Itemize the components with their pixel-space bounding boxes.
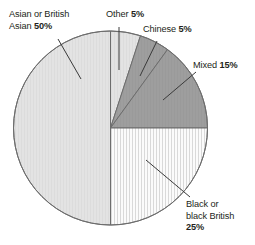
pie-slice-asian-or-british-asian [14, 31, 111, 225]
slice-label-asian-line1: Asian or British [9, 9, 69, 19]
slice-label-other: Other 5% [106, 9, 144, 21]
slice-label-chinese-name: Chinese [143, 24, 178, 34]
slice-label-asian-line2-name: Asian [9, 21, 34, 31]
slice-label-asian-or-british-asian: Asian or British Asian 50% [9, 9, 69, 32]
slice-label-chinese-percent: 5% [178, 24, 191, 34]
slice-label-other-name: Other [106, 9, 131, 19]
slice-label-black-percent: 25% [186, 222, 204, 232]
slice-label-black-line1: Black or [186, 199, 218, 209]
slice-label-asian-percent: 50% [34, 21, 52, 31]
slice-label-black-line2: black British [186, 211, 234, 221]
pie-chart-figure: Asian or British Asian 50% Other 5% Chin… [0, 0, 255, 245]
slice-label-other-percent: 5% [131, 9, 144, 19]
slice-label-mixed-percent: 15% [219, 60, 237, 70]
slice-label-black-or-black-british: Black or black British 25% [186, 199, 234, 234]
slice-label-mixed: Mixed 15% [193, 60, 238, 72]
slice-label-chinese: Chinese 5% [143, 24, 192, 36]
slice-label-mixed-name: Mixed [193, 60, 219, 70]
